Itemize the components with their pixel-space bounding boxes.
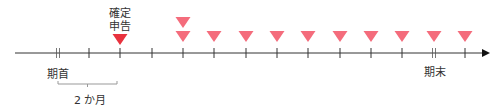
payment-triangle-icon <box>427 31 442 42</box>
payment-triangle-icon <box>239 31 254 42</box>
payment-triangle-icon <box>176 31 191 42</box>
payment-triangle-icon <box>270 31 285 42</box>
payment-triangle-icon <box>333 31 348 42</box>
payment-triangle-icon <box>395 31 410 42</box>
payment-triangle-icon <box>364 31 379 42</box>
timeline-diagram <box>0 0 504 107</box>
final-return-label-line1: 確定 <box>109 8 131 20</box>
final-return-triangle-icon <box>113 34 128 45</box>
payment-triangle-icon <box>176 17 191 28</box>
arrowhead-icon <box>482 49 490 57</box>
payment-triangle-icon <box>207 31 222 42</box>
payment-triangle-icon <box>458 31 473 42</box>
interval-bracket <box>58 81 117 84</box>
period-start-label: 期首 <box>47 69 69 81</box>
final-return-label-line2: 申告 <box>109 21 131 33</box>
interval-label: 2 か月 <box>74 95 107 107</box>
payment-triangle-icon <box>301 31 316 42</box>
period-end-label: 期末 <box>424 67 446 79</box>
